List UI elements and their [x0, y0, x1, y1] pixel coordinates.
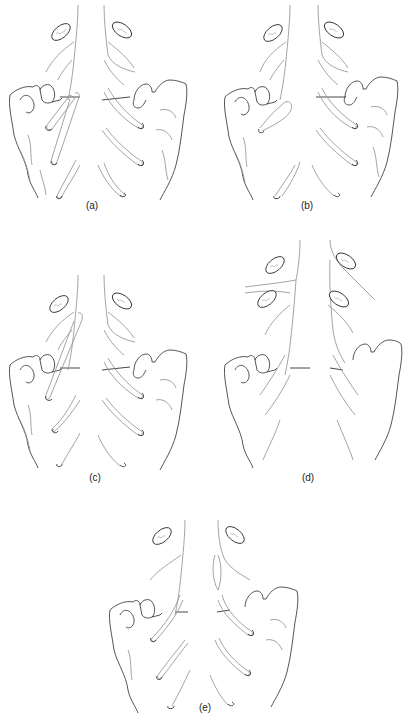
panel-label-b: (b): [301, 200, 313, 211]
ellipse-right-e: [223, 523, 248, 546]
panel-label-a: (a): [86, 200, 98, 211]
panel-b: (b): [200, 0, 405, 215]
ellipse-right-b: [322, 19, 347, 41]
hand-diagram-b: [200, 0, 405, 215]
hand-diagram-a: [0, 0, 200, 215]
hand-diagram-d: [205, 235, 405, 480]
ellipse-left-a: [49, 20, 74, 43]
ellipse-left-e: [150, 524, 175, 547]
panel-label-e: (e): [199, 702, 211, 713]
panel-e: (e): [100, 475, 305, 722]
panel-c: (c): [0, 235, 200, 480]
panel-a: (a): [0, 0, 200, 215]
ellipse-right-top-d: [334, 250, 359, 272]
ellipse-right-c: [110, 290, 135, 312]
panel-d: (d): [205, 235, 405, 480]
ellipse-left-c: [47, 292, 72, 315]
hand-diagram-c: [0, 235, 200, 480]
ellipse-left-b: [261, 21, 286, 44]
ellipse-left-top-d: [263, 253, 288, 276]
ellipse-right-a: [110, 19, 135, 41]
hand-diagram-e: [100, 475, 305, 722]
